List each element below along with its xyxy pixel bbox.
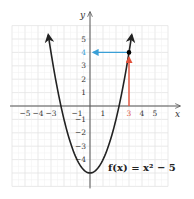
y-tick-label: 1	[81, 88, 86, 97]
y-tick-label: 3	[81, 61, 86, 70]
point-marker	[127, 50, 132, 55]
x-tick-label: 3	[127, 109, 132, 118]
y-tick-label: 2	[81, 75, 86, 84]
y-tick-label: −3	[75, 142, 86, 151]
y-tick-label: −2	[75, 128, 86, 137]
y-tick-label: 4	[81, 48, 86, 57]
x-tick-label: 1	[101, 109, 106, 118]
function-graph: −5−4−3−1134554321−1−2−3−4 x y f(x) = x² …	[0, 0, 194, 199]
y-tick-label: 5	[81, 35, 86, 44]
annotations	[93, 50, 131, 106]
x-tick-label: −4	[32, 109, 43, 118]
x-tick-label: −3	[45, 109, 56, 118]
y-axis-label: y	[79, 10, 86, 20]
function-label: f(x) = x² − 5	[108, 162, 176, 173]
x-tick-label: −5	[19, 109, 30, 118]
x-tick-label: 4	[140, 109, 145, 118]
x-tick-label: 5	[153, 109, 158, 118]
x-axis-label: x	[175, 109, 180, 119]
y-tick-label: −1	[75, 115, 86, 124]
